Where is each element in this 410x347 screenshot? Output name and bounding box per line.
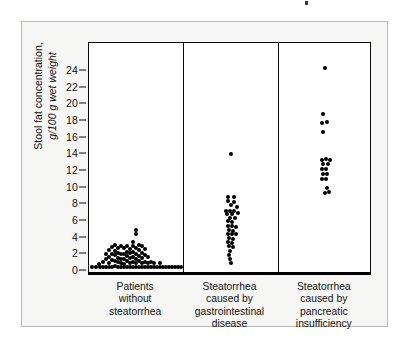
data-point xyxy=(229,152,233,156)
data-point xyxy=(143,247,147,251)
data-point xyxy=(229,261,233,265)
x-category-label-1: Patientswithoutsteatorrhea xyxy=(88,278,182,328)
y-tick-label-24: 24 xyxy=(66,64,78,76)
y-tick-mark-24 xyxy=(79,70,86,71)
y-tick-mark-2 xyxy=(79,253,86,254)
data-point xyxy=(233,216,237,220)
category-divider-1 xyxy=(183,43,184,272)
y-tick-mark-0 xyxy=(79,270,86,271)
x-axis-category-labels: PatientswithoutsteatorrheaSteatorrheacau… xyxy=(88,278,371,328)
y-axis: Stool fat concentration, g/100 g wet wei… xyxy=(22,22,88,275)
y-axis-title-line1: Stool fat concentration, xyxy=(31,1,45,191)
data-point xyxy=(232,195,236,199)
y-tick-label-4: 4 xyxy=(72,231,78,243)
data-point xyxy=(179,265,183,269)
y-tick-mark-10 xyxy=(79,186,86,187)
y-tick-label-20: 20 xyxy=(66,97,78,109)
y-tick-mark-22 xyxy=(79,86,86,87)
y-tick-label-12: 12 xyxy=(66,164,78,176)
y-tick-mark-4 xyxy=(79,236,86,237)
data-point xyxy=(231,245,235,249)
y-tick-label-18: 18 xyxy=(66,114,78,126)
category-divider-2 xyxy=(278,43,279,272)
x-category-label-line: Steatorrhea xyxy=(182,281,276,293)
x-category-label-line: Patients xyxy=(88,281,182,293)
y-tick-mark-16 xyxy=(79,136,86,137)
data-point xyxy=(325,172,329,176)
data-point xyxy=(234,225,238,229)
y-tick-label-8: 8 xyxy=(72,197,78,209)
data-point xyxy=(320,121,324,125)
y-tick-label-22: 22 xyxy=(66,81,78,93)
y-tick-label-14: 14 xyxy=(66,147,78,159)
y-axis-title: Stool fat concentration, g/100 g wet wei… xyxy=(31,1,59,191)
data-point xyxy=(146,255,150,259)
data-point xyxy=(235,205,239,209)
y-tick-mark-14 xyxy=(79,153,86,154)
y-axis-title-line2: g/100 g wet weight xyxy=(45,1,59,191)
data-point xyxy=(323,66,327,70)
x-category-label-line: gastrointestinal xyxy=(182,306,276,318)
y-tick-label-16: 16 xyxy=(66,131,78,143)
data-point xyxy=(321,112,325,116)
figure-container: Stool fat concentration, g/100 g wet wei… xyxy=(0,0,410,347)
data-point xyxy=(134,228,138,232)
x-category-label-line: caused by xyxy=(182,293,276,305)
y-tick-mark-6 xyxy=(79,220,86,221)
x-category-label-line: pancreatic xyxy=(277,306,371,318)
x-category-label-2: Steatorrheacaused bygastrointestinaldise… xyxy=(182,278,276,328)
data-point xyxy=(321,130,325,134)
x-category-label-line: caused by xyxy=(277,293,371,305)
data-point xyxy=(326,162,330,166)
x-category-label-3: Steatorrheacaused bypancreaticinsufficie… xyxy=(277,278,371,328)
x-category-label-line: steatorrhea xyxy=(88,306,182,318)
print-artifact-mark xyxy=(305,1,308,5)
data-point xyxy=(101,260,105,264)
x-category-label-line: Steatorrhea xyxy=(277,281,371,293)
y-tick-label-10: 10 xyxy=(66,181,78,193)
y-tick-label-0: 0 xyxy=(72,264,78,276)
x-category-label-line: disease xyxy=(182,318,276,330)
y-tick-label-2: 2 xyxy=(72,247,78,259)
data-point xyxy=(236,211,240,215)
data-point xyxy=(327,190,331,194)
y-tick-label-6: 6 xyxy=(72,214,78,226)
data-point xyxy=(229,203,233,207)
plot-area xyxy=(88,42,371,275)
y-tick-mark-8 xyxy=(79,203,86,204)
y-tick-mark-12 xyxy=(79,170,86,171)
data-point xyxy=(131,240,135,244)
data-point xyxy=(324,177,328,181)
data-point xyxy=(325,120,329,124)
y-tick-mark-18 xyxy=(79,120,86,121)
y-tick-mark-20 xyxy=(79,103,86,104)
x-category-label-line: without xyxy=(88,293,182,305)
x-category-label-line: insufficiency xyxy=(277,318,371,330)
chart-panel: Stool fat concentration, g/100 g wet wei… xyxy=(21,21,388,327)
data-point xyxy=(234,232,238,236)
